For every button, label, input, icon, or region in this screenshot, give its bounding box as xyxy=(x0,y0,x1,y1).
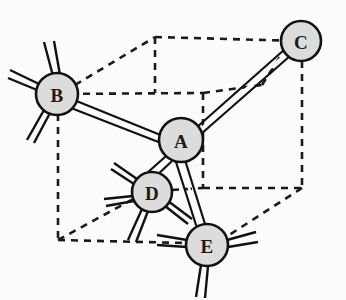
dangling-bond-d-2a xyxy=(104,196,133,199)
dangling-bond-d-1b xyxy=(111,169,134,184)
dangling-bond-e-3b xyxy=(205,266,208,298)
bond-a-c-edge1 xyxy=(196,49,285,128)
atom-a[interactable]: A xyxy=(159,118,203,162)
dangling-bond-d-3a xyxy=(128,209,142,240)
atom-b-label: B xyxy=(50,85,63,106)
atom-e-label: E xyxy=(200,236,213,257)
bond-a-e xyxy=(176,160,205,225)
cell-edge-front-bottom xyxy=(58,240,186,243)
bond-a-c-edge2 xyxy=(201,56,290,134)
bond-a-b-core xyxy=(73,104,163,140)
bond-a-e-core xyxy=(181,161,201,225)
dangling-bond-d-1a xyxy=(114,163,137,179)
atom-d[interactable]: D xyxy=(132,172,172,212)
atom-b[interactable]: B xyxy=(36,73,78,115)
atom-a-label: A xyxy=(174,131,188,152)
dangling-bond-e-3a xyxy=(196,265,201,297)
cell-edge-d-to-front-bottom-right xyxy=(172,188,203,190)
bond-a-b-edge1 xyxy=(74,100,163,136)
atom-d-label: D xyxy=(145,183,159,204)
dangling-bond-b-3b xyxy=(34,113,50,143)
cell-edge-right-bottom-to-e xyxy=(226,188,302,237)
structure-canvas: B C A D E xyxy=(0,0,346,300)
dangling-bond-b-1a xyxy=(44,42,53,76)
bond-a-e-edge2 xyxy=(185,160,205,224)
molecular-structure-figure: B C A D E xyxy=(0,0,346,300)
dangling-bond-e-1a xyxy=(157,235,187,240)
atom-c-label: C xyxy=(294,32,308,53)
dangling-bond-b-1b xyxy=(54,41,60,75)
bond-a-c-core xyxy=(199,53,288,132)
bond-a-b-edge2 xyxy=(71,108,161,143)
atom-e[interactable]: E xyxy=(186,224,228,266)
dangling-bond-e-1b xyxy=(157,245,187,247)
cell-edge-back-top xyxy=(155,37,301,41)
atom-c[interactable]: C xyxy=(281,21,321,61)
dangling-bond-b-3a xyxy=(27,110,44,140)
cell-edge-b-to-back-top-left xyxy=(75,37,155,85)
bond-a-b xyxy=(71,100,163,143)
bond-a-c xyxy=(196,49,290,134)
cell-edge-bottom-left-diagonal xyxy=(58,198,135,240)
dangling-bond-e-2b xyxy=(228,242,258,247)
